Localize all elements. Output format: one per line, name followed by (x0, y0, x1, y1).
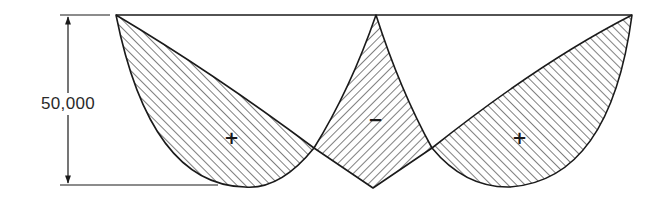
region-middle-negative (314, 15, 432, 188)
sign-middle-negative: − (368, 111, 383, 129)
region-left-positive (116, 15, 314, 187)
dimension-label: 50,000 (32, 93, 104, 115)
region-right-positive (432, 15, 632, 187)
sign-left-positive: + (224, 129, 239, 147)
sign-right-positive: + (512, 129, 527, 147)
